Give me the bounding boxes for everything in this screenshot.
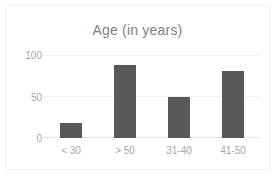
chart-container: Age (in years) 100 50 0 < 30 > 50 31-40 …	[5, 4, 270, 170]
bar-slot	[206, 55, 260, 138]
bar-41-50[interactable]	[222, 71, 244, 138]
x-tick-label: 41-50	[220, 145, 246, 156]
bar-slot	[98, 55, 152, 138]
y-tick-label: 100	[25, 50, 42, 61]
bar-31-40[interactable]	[168, 97, 190, 139]
bar-gt50[interactable]	[114, 65, 136, 138]
bar-lt30[interactable]	[60, 123, 82, 138]
y-axis-tick-labels: 100 50 0	[14, 55, 42, 138]
bar-slot	[44, 55, 98, 138]
bar-slot	[152, 55, 206, 138]
x-tick-label: < 30	[61, 145, 81, 156]
x-tick-label: 31-40	[166, 145, 192, 156]
bar-series	[44, 55, 260, 138]
chart-title: Age (in years)	[6, 22, 269, 38]
y-tick-label: 50	[31, 91, 42, 102]
x-tick-label: > 50	[115, 145, 135, 156]
y-tick-label: 0	[36, 133, 42, 144]
x-axis-tick-labels: < 30 > 50 31-40 41-50	[44, 145, 260, 159]
